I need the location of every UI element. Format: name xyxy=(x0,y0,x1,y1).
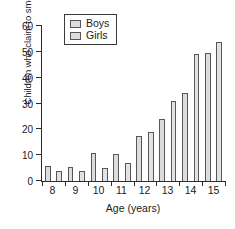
bar-group-14-girls xyxy=(191,26,202,181)
bar-girls-age-11 xyxy=(125,163,131,181)
x-tick-label-11: 11 xyxy=(110,184,133,196)
y-tick-label-50: 50 xyxy=(22,46,33,57)
y-tick-50: 50 xyxy=(36,51,42,52)
bar-girls-age-8 xyxy=(56,171,62,181)
bar-group-8-girls xyxy=(53,26,64,181)
legend-swatch-girls-icon xyxy=(70,32,81,40)
y-tick-20: 20 xyxy=(36,128,42,129)
x-tick-label-8: 8 xyxy=(41,184,64,196)
bar-boys-age-11 xyxy=(113,154,119,181)
x-tick-label-9: 9 xyxy=(64,184,87,196)
bar-group-10-girls xyxy=(99,26,110,181)
bar-boys-age-10 xyxy=(91,153,97,181)
legend-item-girls: Girls xyxy=(70,30,109,41)
plot-area: 0102030405060 xyxy=(41,26,225,182)
bar-chart: Children who claim to smoke cigarettes (… xyxy=(0,0,235,229)
bar-group-13-boys xyxy=(156,26,167,181)
y-tick-label-0: 0 xyxy=(27,176,33,187)
y-tick-10: 10 xyxy=(36,154,42,155)
bar-boys-age-12 xyxy=(136,136,142,181)
x-axis-title: Age (years) xyxy=(41,202,225,214)
x-tick-end xyxy=(225,181,226,186)
x-tick-label-14: 14 xyxy=(179,184,202,196)
bar-boys-age-13 xyxy=(159,119,165,181)
bar-group-9-girls xyxy=(76,26,87,181)
bar-group-15-boys xyxy=(202,26,213,181)
y-tick-label-60: 60 xyxy=(22,21,33,32)
y-axis-title-container: Children who claim to smoke cigarettes (… xyxy=(0,0,18,200)
bar-boys-age-15 xyxy=(205,53,211,181)
bar-girls-age-14 xyxy=(194,54,200,181)
bar-girls-age-13 xyxy=(171,101,177,181)
bar-group-8-boys xyxy=(42,26,53,181)
bar-group-11-boys xyxy=(111,26,122,181)
x-axis-tick-labels: 89101112131415 xyxy=(41,184,225,196)
bar-girls-age-10 xyxy=(102,168,108,181)
bar-group-9-boys xyxy=(65,26,76,181)
y-tick-60: 60 xyxy=(36,25,42,26)
legend-label-girls: Girls xyxy=(86,30,108,41)
bar-girls-age-15 xyxy=(216,42,222,182)
bar-group-15-girls xyxy=(214,26,225,181)
bar-girls-age-12 xyxy=(148,132,154,181)
bar-series-container xyxy=(42,26,225,181)
x-tick-label-12: 12 xyxy=(133,184,156,196)
legend-label-boys: Boys xyxy=(86,18,109,29)
bar-group-14-boys xyxy=(179,26,190,181)
bar-group-11-girls xyxy=(122,26,133,181)
legend-item-boys: Boys xyxy=(70,18,109,29)
bar-group-12-girls xyxy=(145,26,156,181)
bar-group-13-girls xyxy=(168,26,179,181)
bar-boys-age-9 xyxy=(68,167,74,181)
bar-boys-age-8 xyxy=(45,166,51,182)
y-tick-40: 40 xyxy=(36,77,42,78)
bar-girls-age-9 xyxy=(79,171,85,181)
y-tick-label-20: 20 xyxy=(22,124,33,135)
x-tick-label-15: 15 xyxy=(202,184,225,196)
y-tick-label-40: 40 xyxy=(22,72,33,83)
y-tick-label-30: 30 xyxy=(22,98,33,109)
bar-group-10-boys xyxy=(88,26,99,181)
legend: Boys Girls xyxy=(64,14,117,45)
bar-group-12-boys xyxy=(134,26,145,181)
y-tick-30: 30 xyxy=(36,103,42,104)
x-tick-label-13: 13 xyxy=(156,184,179,196)
y-tick-label-10: 10 xyxy=(22,150,33,161)
legend-swatch-boys-icon xyxy=(70,20,81,28)
x-tick-label-10: 10 xyxy=(87,184,110,196)
bar-boys-age-14 xyxy=(182,93,188,181)
